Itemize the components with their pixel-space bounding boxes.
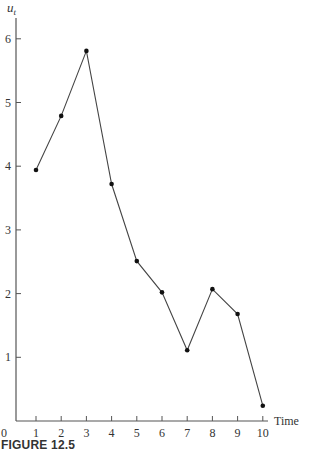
data-point	[34, 168, 39, 173]
x-axis-label: Time	[274, 414, 299, 428]
data-point	[135, 259, 140, 264]
data-point	[84, 49, 89, 54]
y-tick-label: 2	[5, 287, 11, 301]
series-line	[36, 51, 263, 406]
data-point	[185, 348, 190, 353]
y-tick-label: 3	[5, 223, 11, 237]
x-tick-label: 6	[159, 426, 165, 440]
data-point	[160, 290, 165, 295]
x-tick-label: 9	[235, 426, 241, 440]
x-tick-label: 4	[109, 426, 115, 440]
y-axis-label: ut	[7, 0, 17, 17]
y-tick-label: 6	[5, 32, 11, 46]
x-tick-label: 10	[257, 426, 269, 440]
data-series	[34, 49, 265, 408]
data-point	[235, 312, 240, 317]
data-point	[210, 287, 215, 292]
x-tick-label: 8	[209, 426, 215, 440]
figure-caption: FIGURE 12.5	[1, 438, 75, 452]
data-point	[109, 182, 114, 187]
line-chart: 12345612345678910 ut Time 0	[0, 0, 312, 456]
x-tick-label: 7	[184, 426, 190, 440]
data-point	[261, 403, 266, 408]
y-tick-label: 5	[5, 96, 11, 110]
axes: 12345612345678910	[5, 18, 269, 440]
y-tick-label: 4	[5, 159, 11, 173]
data-point	[59, 114, 64, 119]
x-tick-label: 3	[83, 426, 89, 440]
y-tick-label: 1	[5, 350, 11, 364]
x-tick-label: 5	[134, 426, 140, 440]
